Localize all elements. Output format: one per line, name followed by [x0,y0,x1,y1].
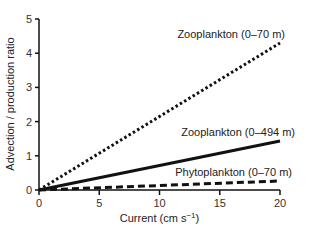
label-phytoplankton-0-70m: Phytoplankton (0–70 m) [175,166,292,178]
line-chart: 0 1 2 3 4 5 0 5 10 15 20 Current (cm s−1… [0,0,309,236]
y-tick-1: 1 [26,150,32,162]
y-tick-5: 5 [26,13,32,25]
y-tick-labels: 0 1 2 3 4 5 [26,13,32,196]
y-tick-3: 3 [26,81,32,93]
y-tick-2: 2 [26,116,32,128]
y-tick-0: 0 [26,184,32,196]
x-tick-15: 15 [214,197,226,209]
x-tick-5: 5 [96,197,102,209]
x-tick-20: 20 [274,197,286,209]
y-axis-label: Advection / production ratio [4,37,16,170]
label-zooplankton-0-494m: Zooplankton (0–494 m) [181,126,295,138]
x-tick-0: 0 [36,197,42,209]
label-zooplankton-0-70m: Zooplankton (0–70 m) [177,28,285,40]
x-axis-label: Current (cm s−1) [120,211,199,224]
x-tick-labels: 0 5 10 15 20 [36,197,286,209]
series-labels: Zooplankton (0–70 m) Zooplankton (0–494 … [175,28,295,178]
y-tick-4: 4 [26,47,32,59]
x-tick-10: 10 [153,197,165,209]
